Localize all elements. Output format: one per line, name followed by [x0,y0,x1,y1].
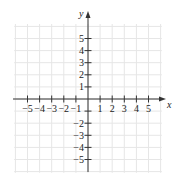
x-tick-label: 5 [146,103,151,114]
x-tick-label: 3 [122,103,127,114]
x-tick-label: −3 [46,103,57,114]
x-tick-label: −5 [22,103,33,114]
y-tick-label: −3 [73,130,84,141]
x-tick-label: −4 [34,103,45,114]
y-tick-label: −4 [73,142,84,153]
y-axis-arrow-icon [86,11,91,18]
x-tick-label: −1 [71,103,82,114]
y-axis-label: y [78,8,84,19]
y-tick-label: 2 [79,69,84,80]
y-tick-label: −2 [73,118,84,129]
y-tick-label: 1 [79,81,84,92]
y-tick-label: −5 [73,154,84,165]
x-tick-label: 4 [134,103,139,114]
x-tick-label: −2 [58,103,69,114]
x-tick-label: 2 [110,103,115,114]
y-tick-label: 3 [79,57,84,68]
y-tick-label: 4 [79,45,84,56]
x-axis-arrow-icon [159,97,166,102]
x-tick-label: 1 [98,103,103,114]
y-tick-label: 5 [79,33,84,44]
coordinate-plane: −5−4−3−2−11234554321−2−3−4−5 x y [0,0,179,179]
x-axis-label: x [166,99,172,110]
